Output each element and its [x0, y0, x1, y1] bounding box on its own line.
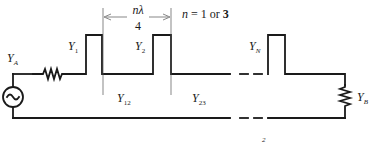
source-admittance-label: YA [7, 51, 19, 67]
stub-1-label: Y1 [68, 39, 79, 55]
line-23-label: Y23 [192, 91, 206, 107]
main-line-stubs [70, 35, 230, 74]
stub-filter-diagram: nλ 4 n = 1 or 3 YA Y1 Y2 YN Y12 Y23 YB 2 [0, 0, 375, 146]
spacing-denominator: 4 [135, 19, 141, 33]
stub-2-label: Y2 [135, 39, 146, 55]
stub-n-label: YN [249, 39, 261, 55]
stub-n-line [268, 35, 345, 85]
series-resistor-icon [33, 69, 70, 79]
ac-source-icon [3, 74, 23, 118]
load-admittance-label: YB [357, 90, 369, 106]
n-note: n = 1 or 3 [182, 7, 229, 21]
page-mark: 2 [262, 136, 266, 144]
line-12-label: Y12 [117, 91, 131, 107]
load-resistor-icon [340, 85, 350, 118]
spacing-numerator: nλ [132, 3, 143, 17]
